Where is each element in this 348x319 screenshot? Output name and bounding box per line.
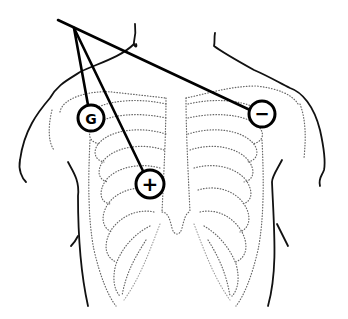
- sternum-left-edge: [162, 98, 166, 212]
- armpit-right-crease: [277, 224, 288, 246]
- electrode-negative: −: [249, 101, 275, 127]
- lead-wires: [58, 20, 250, 171]
- rib-right-5: [194, 166, 251, 204]
- electrode-ground: G: [78, 105, 104, 131]
- rib-right-4: [190, 146, 253, 182]
- shoulder-left-contour: [19, 44, 134, 182]
- torso-left-side: [68, 162, 88, 306]
- scapula-right: [300, 104, 305, 158]
- rib-right-7: [200, 211, 246, 262]
- lead-wire-positive: [74, 28, 143, 171]
- rib-left-margin: [89, 140, 116, 306]
- rib-left-8: [114, 226, 150, 296]
- electrode-ground-label: G: [85, 111, 97, 127]
- sternum-right-edge: [186, 98, 190, 212]
- diagram-canvas: G + −: [0, 0, 348, 319]
- xiphoid-process: [162, 212, 190, 234]
- rib-left-7: [106, 211, 154, 262]
- rib-right-3: [188, 130, 257, 162]
- scapula-left: [49, 110, 54, 150]
- electrode-negative-label: −: [254, 103, 269, 124]
- ecg-placement-diagram: G + −: [0, 0, 348, 319]
- armpit-left-crease: [71, 236, 78, 246]
- electrode-positive-label: +: [142, 172, 159, 196]
- torso-outline: [19, 24, 324, 306]
- rib-right-9: [208, 240, 230, 296]
- electrode-positive: +: [136, 170, 164, 198]
- rib-right-6: [198, 188, 249, 232]
- torso-right-side: [268, 160, 282, 306]
- neck-left-contour: [134, 24, 137, 46]
- costal-margin-right: [194, 224, 230, 300]
- costal-margin-left: [124, 224, 160, 300]
- rib-right-margin: [236, 140, 263, 306]
